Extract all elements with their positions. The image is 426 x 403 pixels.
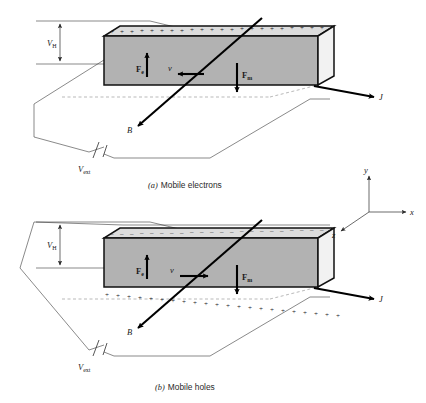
svg-text:+: + [310,24,314,32]
svg-text:+: + [149,295,153,303]
hall-effect-figure: Vext VH ++ ++ ++ ++ ++ ++ [0,0,426,403]
svg-text:–: – [319,226,324,234]
svg-text:+: + [240,25,244,33]
external-voltage-label-a: Vext [78,164,91,175]
caption-b: (b)Mobile holes [155,382,215,392]
svg-text:+: + [230,26,234,34]
svg-text:+: + [210,26,214,34]
hidden-edges-a [62,85,318,97]
svg-text:+: + [138,294,142,302]
svg-text:+: + [182,298,186,306]
svg-text:–: – [209,228,214,236]
svg-text:+: + [281,307,285,315]
svg-text:+: + [105,291,109,299]
battery-symbol-a [89,142,114,158]
svg-text:–: – [279,227,284,235]
svg-text:–: – [269,227,274,235]
velocity-label-a: v [168,63,172,73]
svg-text:+: + [193,299,197,307]
svg-text:–: – [129,230,134,238]
svg-text:+: + [215,301,219,309]
svg-text:–: – [179,229,184,237]
external-voltage-label-b: Vext [78,362,91,373]
hall-voltage-label-b: VH [47,240,57,251]
svg-text:+: + [200,26,204,34]
svg-text:+: + [314,310,318,318]
svg-text:–: – [109,230,114,238]
svg-text:–: – [219,228,224,236]
magnetic-field-label-b: B [127,327,132,337]
svg-text:–: – [159,229,164,237]
svg-text:–: – [229,228,234,236]
svg-text:+: + [180,27,184,35]
svg-text:+: + [237,303,241,311]
svg-text:+: + [300,24,304,32]
hall-effect-diagram: Vext VH ++ ++ ++ ++ ++ ++ [0,0,426,403]
svg-text:–: – [139,229,144,237]
panel-a: Vext VH ++ ++ ++ ++ ++ ++ [34,18,384,190]
svg-text:+: + [336,312,340,320]
svg-text:+: + [140,27,144,35]
x-axis-label: x [409,207,414,217]
svg-text:–: – [169,229,174,237]
svg-text:–: – [119,230,124,238]
svg-text:+: + [127,293,131,301]
current-label-a: J [379,92,384,102]
panel-b: Vext VH –– –– –– –– –– –– [20,220,384,392]
svg-text:–: – [149,229,154,237]
svg-text:+: + [270,25,274,33]
svg-text:+: + [303,309,307,317]
svg-text:+: + [260,25,264,33]
svg-text:–: – [259,227,264,235]
svg-text:+: + [150,27,154,35]
svg-text:–: – [289,226,294,234]
svg-text:+: + [290,24,294,32]
coordinate-axes: y x z [331,165,414,240]
z-axis-label: z [331,230,336,240]
battery-symbol-b [89,340,114,356]
svg-text:+: + [325,311,329,319]
surface-charges-bottom-b: ++ ++ ++ ++ ++ ++ ++ ++ ++ ++ ++ [105,291,340,320]
magnetic-field-label-a: B [127,125,132,135]
svg-text:–: – [189,228,194,236]
hall-voltage-label-a: VH [47,38,57,49]
z-axis-arrow [341,212,369,231]
svg-text:+: + [270,306,274,314]
slab-front-face-a [104,36,318,85]
current-arrow-a [314,86,374,97]
svg-text:+: + [160,296,164,304]
svg-text:–: – [309,226,314,234]
current-label-b: J [379,294,384,304]
svg-text:+: + [116,292,120,300]
svg-text:+: + [120,28,124,36]
svg-text:+: + [160,27,164,35]
svg-text:+: + [320,24,324,32]
svg-text:+: + [110,28,114,36]
svg-text:+: + [170,27,174,35]
svg-text:+: + [259,305,263,313]
svg-text:+: + [248,304,252,312]
svg-text:+: + [292,308,296,316]
svg-text:+: + [204,300,208,308]
svg-text:–: – [199,228,204,236]
hidden-edges-b [62,287,318,299]
svg-text:–: – [299,226,304,234]
svg-text:+: + [226,302,230,310]
svg-text:+: + [280,25,284,33]
velocity-label-b: v [170,265,174,275]
y-axis-label: y [363,165,368,175]
svg-text:+: + [190,26,194,34]
svg-text:+: + [130,28,134,36]
caption-a: (a)Mobile electrons [148,180,222,190]
svg-text:+: + [220,26,224,34]
slab-front-face-b [104,238,318,287]
current-arrow-b [314,288,374,299]
svg-text:–: – [239,227,244,235]
slab-end-face-a [318,26,334,85]
